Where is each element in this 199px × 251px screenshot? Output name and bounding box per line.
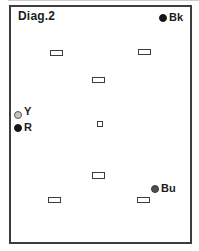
terminal-slot xyxy=(97,121,103,127)
terminal-slot xyxy=(50,50,63,56)
bu-label: Bu xyxy=(161,183,176,194)
marker-bk: Bk xyxy=(159,12,183,23)
marker-bu: Bu xyxy=(151,183,176,194)
scan-artifact-line xyxy=(8,0,199,1)
diagram-frame: Diag.2 BkYRBu xyxy=(9,5,192,244)
r-dot-icon xyxy=(14,124,22,132)
bk-label: Bk xyxy=(169,12,183,23)
y-dot-icon xyxy=(14,111,22,119)
y-label: Y xyxy=(24,106,31,117)
screenshot-root: Diag.2 BkYRBu xyxy=(0,0,199,251)
terminal-slot xyxy=(138,49,151,55)
terminal-slot xyxy=(92,172,105,179)
r-label: R xyxy=(24,122,32,133)
bk-dot-icon xyxy=(159,14,167,22)
terminal-slot xyxy=(92,77,105,83)
terminal-slot xyxy=(48,197,61,203)
diagram-title: Diag.2 xyxy=(18,10,55,23)
terminal-slot xyxy=(137,197,150,203)
marker-y: Y xyxy=(14,109,31,120)
bu-dot-icon xyxy=(151,185,159,193)
marker-r: R xyxy=(14,122,32,133)
